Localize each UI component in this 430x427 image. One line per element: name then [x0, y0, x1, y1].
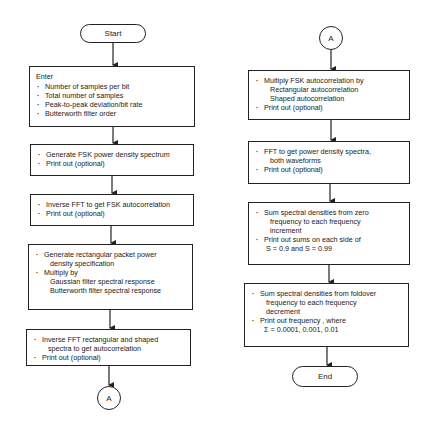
enter-item: Number of samples per bit: [36, 82, 188, 91]
process-subitem: Rectangular autocorrelation: [255, 85, 403, 94]
process-item: Inverse FFT to get FSK autocorrelation: [37, 200, 187, 209]
process-item: Print out (optional): [255, 165, 403, 174]
process-subitem: Shaped autocorrelation: [255, 94, 403, 103]
process-item: FFT to get power density spectra,: [255, 147, 403, 156]
process-subitem: Butterworth filter spectral response: [35, 286, 186, 295]
process-subitem: Gaussian filter spectral response: [35, 277, 186, 286]
process-item: Multiply by: [35, 268, 186, 277]
fft-power-density-box: FFT to get power density spectra, both w…: [248, 141, 410, 184]
end-label: End: [318, 372, 332, 381]
process-item: Sum spectral densities from foldover: [251, 289, 402, 298]
process-item-cont: increment: [255, 226, 403, 235]
start-terminal: Start: [80, 24, 146, 43]
enter-inputs-box: Enter Number of samples per bit Total nu…: [29, 66, 195, 127]
process-item: Multiply FSK autocorrelation by: [255, 76, 403, 85]
process-item: Print out (optional): [37, 159, 187, 168]
process-item: Print out frequency , where: [251, 316, 402, 325]
connector-label: A: [106, 394, 111, 403]
process-item: Inverse FFT rectangular and shaped: [33, 335, 184, 344]
connector-label: A: [328, 34, 333, 43]
enter-title: Enter: [36, 72, 188, 81]
process-item: Sum spectral densities from zero: [255, 208, 403, 217]
enter-item: Butterworth filter order: [36, 109, 188, 118]
enter-item: Peak-to-peak deviation/bit rate: [36, 100, 188, 109]
process-item: Print out (optional): [37, 209, 187, 218]
multiply-autocorrelation-box: Multiply FSK autocorrelation by Rectangu…: [248, 70, 410, 120]
generate-fsk-box: Generate FSK power density spectrum Prin…: [30, 144, 194, 176]
enter-item: Total number of samples: [36, 91, 188, 100]
process-item: Print out (optional): [33, 353, 184, 362]
process-item-cont: Σ = 0.0001, 0.001, 0.01: [251, 325, 402, 334]
process-item-cont: spectra to get autocorrelation: [33, 344, 184, 353]
inverse-fft-rect-box: Inverse FFT rectangular and shaped spect…: [26, 329, 191, 366]
sum-from-foldover-box: Sum spectral densities from foldover fre…: [244, 283, 409, 347]
connector-a-out: A: [97, 386, 121, 410]
process-item: Print out (optional): [255, 103, 403, 112]
process-item-cont: both waveforms: [255, 156, 403, 165]
process-item: Generate rectangular packet power: [35, 250, 186, 259]
connector-a-in: A: [319, 26, 343, 50]
sum-from-zero-box: Sum spectral densities from zero frequen…: [248, 202, 410, 265]
end-terminal: End: [292, 366, 358, 387]
process-item: Print out sums on each side of: [255, 235, 403, 244]
process-item-cont: S = 0.9 and S = 0.99: [255, 244, 403, 253]
inverse-fft-fsk-box: Inverse FFT to get FSK autocorrelation P…: [30, 194, 194, 226]
process-item: Generate FSK power density spectrum: [37, 150, 187, 159]
generate-rect-box: Generate rectangular packet power densit…: [28, 244, 193, 310]
process-item-cont: density specification: [35, 259, 186, 268]
process-item-cont: frequency to each frequency: [251, 298, 402, 307]
process-item-cont: frequency to each frequency: [255, 217, 403, 226]
process-item-cont: decrement: [251, 307, 402, 316]
start-label: Start: [105, 29, 122, 38]
